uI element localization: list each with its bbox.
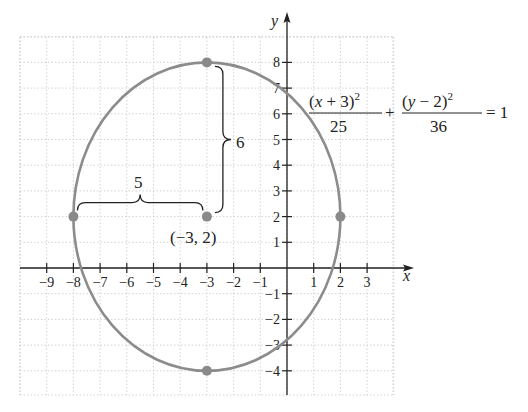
x-tick-label: −4 bbox=[173, 275, 188, 290]
y-tick-label: −1 bbox=[265, 287, 280, 302]
key-point bbox=[68, 212, 78, 222]
y-tick-label: 1 bbox=[273, 235, 280, 250]
y-tick-label: 3 bbox=[273, 184, 280, 199]
y-tick-label: 5 bbox=[273, 133, 280, 148]
brace-vertical-label: 6 bbox=[236, 133, 245, 152]
equation-term1-denominator: 25 bbox=[330, 117, 347, 136]
ellipse-graph: −9−8−7−6−5−4−3−2−1123−4−3−2−112345678 x … bbox=[0, 0, 528, 412]
key-point bbox=[202, 366, 212, 376]
y-axis-label: y bbox=[269, 12, 279, 30]
axes bbox=[20, 12, 414, 395]
y-tick-label: −2 bbox=[265, 312, 280, 327]
key-point bbox=[335, 212, 345, 222]
x-tick-label: −5 bbox=[146, 275, 161, 290]
x-tick-label: −2 bbox=[226, 275, 241, 290]
equation-term2-numerator: (y − 2)2 bbox=[402, 90, 453, 111]
x-tick-label: 3 bbox=[364, 275, 371, 290]
equation-term1-numerator: (x + 3)2 bbox=[309, 90, 360, 111]
y-tick-label: 8 bbox=[273, 55, 280, 70]
y-tick-label: 6 bbox=[273, 107, 280, 122]
key-point bbox=[202, 57, 212, 67]
y-tick-label: 4 bbox=[273, 158, 280, 173]
key-point bbox=[202, 212, 212, 222]
x-tick-label: −8 bbox=[66, 275, 81, 290]
x-tick-label: −6 bbox=[119, 275, 134, 290]
x-tick-label: −9 bbox=[39, 275, 54, 290]
x-axis-label: x bbox=[402, 267, 410, 284]
center-point-label: (−3, 2) bbox=[170, 228, 216, 247]
equation-rhs: = 1 bbox=[486, 103, 508, 122]
brace-horizontal-label: 5 bbox=[134, 173, 143, 192]
x-tick-label: 2 bbox=[337, 275, 344, 290]
x-tick-label: −7 bbox=[93, 275, 108, 290]
x-tick-label: −3 bbox=[199, 275, 214, 290]
ellipse-equation: (x + 3)2 25 + (y − 2)2 36 = 1 bbox=[309, 90, 508, 136]
equation-term2-denominator: 36 bbox=[430, 117, 447, 136]
brace-horizontal bbox=[77, 195, 202, 211]
x-tick-label: 1 bbox=[310, 275, 317, 290]
y-tick-label: 2 bbox=[273, 210, 280, 225]
y-tick-label: −4 bbox=[265, 364, 280, 379]
equation-plus: + bbox=[385, 103, 395, 122]
